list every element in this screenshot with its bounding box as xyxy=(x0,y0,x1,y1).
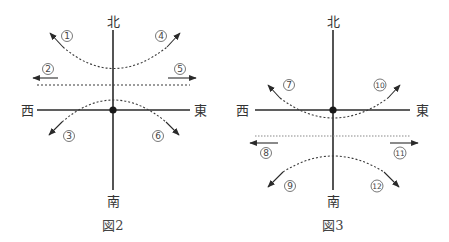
svg-text:5: 5 xyxy=(177,64,183,74)
label-9: 9 xyxy=(285,181,296,192)
origin-dot xyxy=(109,106,116,113)
svg-text:11: 11 xyxy=(395,149,405,158)
svg-text:7: 7 xyxy=(286,80,292,90)
west-label: 西 xyxy=(236,103,249,118)
label-3: 3 xyxy=(64,131,75,142)
arrow-3 xyxy=(49,122,62,135)
arrow-10 xyxy=(388,85,400,98)
label-12: 12 xyxy=(371,180,383,192)
west-label: 西 xyxy=(21,103,34,118)
east-label: 東 xyxy=(416,103,429,118)
south-label: 南 xyxy=(327,194,340,209)
north-label: 北 xyxy=(327,14,340,29)
svg-text:4: 4 xyxy=(158,31,164,41)
label-10: 10 xyxy=(374,79,386,91)
arrow-7 xyxy=(268,85,280,98)
svg-text:1: 1 xyxy=(64,31,70,41)
diagram-canvas: 北 南 西 東 1 4 2 5 3 6 図2 北 南 西 東 xyxy=(0,0,449,242)
label-6: 6 xyxy=(153,131,164,142)
label-2: 2 xyxy=(43,64,54,75)
svg-text:9: 9 xyxy=(287,181,293,191)
figure-2: 北 南 西 東 1 4 2 5 3 6 図2 xyxy=(21,14,207,233)
label-7: 7 xyxy=(284,80,295,91)
label-11: 11 xyxy=(394,147,406,159)
figure-3: 北 南 西 東 7 10 8 11 9 12 図3 xyxy=(236,14,429,233)
upper-curve xyxy=(63,47,167,69)
arrow-1 xyxy=(50,33,63,47)
svg-text:3: 3 xyxy=(66,131,72,141)
east-label: 東 xyxy=(194,103,207,118)
origin-dot xyxy=(329,106,336,113)
arrow-6 xyxy=(166,122,179,135)
label-8: 8 xyxy=(261,148,272,159)
svg-text:2: 2 xyxy=(45,64,51,74)
arrow-12 xyxy=(384,172,399,187)
label-1: 1 xyxy=(62,31,73,42)
arrow-4 xyxy=(167,33,180,47)
svg-text:10: 10 xyxy=(375,81,385,90)
label-4: 4 xyxy=(156,31,167,42)
south-label: 南 xyxy=(107,194,120,209)
svg-text:6: 6 xyxy=(155,131,161,141)
north-label: 北 xyxy=(107,14,120,29)
svg-text:8: 8 xyxy=(263,148,269,158)
label-5: 5 xyxy=(175,64,186,75)
figure-3-caption: 図3 xyxy=(322,218,343,233)
svg-text:12: 12 xyxy=(372,182,382,191)
arrow-9 xyxy=(268,172,283,187)
figure-2-caption: 図2 xyxy=(102,218,123,233)
